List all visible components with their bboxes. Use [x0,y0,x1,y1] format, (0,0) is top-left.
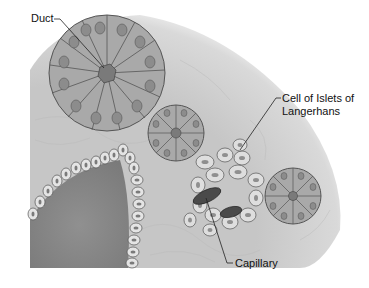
pancreas-diagram [0,0,369,288]
label-capillary: Capillary [235,257,278,270]
acinus-small-right [265,168,321,224]
label-islet-line1: Cell of Islets of [282,92,354,105]
acinus-medium [148,105,204,161]
acinus-large [49,15,165,131]
label-duct: Duct [31,12,54,25]
label-islet-line2: Langerhans [282,105,340,118]
